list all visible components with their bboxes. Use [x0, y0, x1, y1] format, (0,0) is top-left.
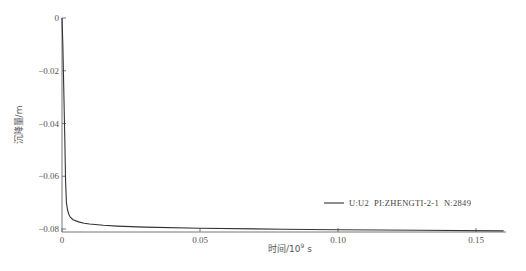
- x-tick-label: 0.05: [192, 235, 208, 245]
- x-tick-label: 0.10: [330, 235, 346, 245]
- x-axis-label: 时间/109 s: [268, 242, 312, 254]
- x-tick-label: 0.15: [468, 235, 484, 245]
- legend: U:U2 PI:ZHENGTI-2-1 N:2849: [324, 198, 471, 208]
- y-tick-label: −0.04: [38, 119, 59, 129]
- y-tick-label: 0: [55, 13, 60, 23]
- y-axis-label: 沉降量/m: [13, 106, 24, 145]
- settlement-chart: 0−0.02−0.04−0.06−0.08 00.050.100.15 沉降量/…: [0, 0, 526, 271]
- y-tick-label: −0.02: [38, 66, 59, 76]
- x-tick-label: 0: [60, 235, 65, 245]
- y-tick-label: −0.08: [38, 224, 59, 234]
- legend-label: U:U2 PI:ZHENGTI-2-1 N:2849: [349, 198, 471, 208]
- y-tick-label: −0.06: [38, 171, 59, 181]
